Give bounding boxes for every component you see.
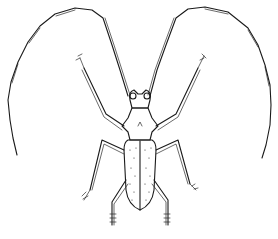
antenna-right <box>148 7 271 158</box>
midleg-right <box>156 140 198 190</box>
foreleg-left <box>76 54 124 130</box>
beetle-drawing <box>0 0 278 239</box>
midleg-left <box>82 140 124 200</box>
illustration-canvas <box>0 0 278 239</box>
foreleg-right <box>156 54 206 130</box>
elytra <box>124 140 156 210</box>
head <box>130 90 151 108</box>
antenna-left <box>8 8 130 155</box>
pronotum <box>122 108 158 140</box>
